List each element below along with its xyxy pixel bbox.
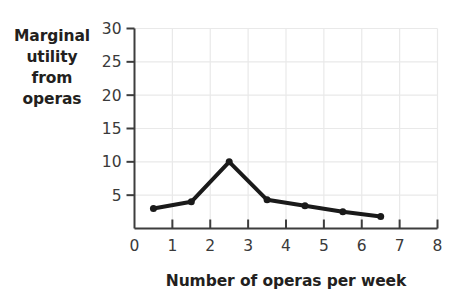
data-point-marker — [301, 202, 308, 209]
grid-lines — [135, 29, 438, 229]
x-tick-label: 3 — [243, 237, 253, 255]
tick-labels: 51015202530012345678 — [102, 20, 443, 255]
chart-figure: Marginal utility from operas 51015202530… — [0, 0, 460, 305]
x-tick-label: 5 — [319, 237, 329, 255]
y-tick-label: 20 — [102, 87, 122, 105]
series-path — [153, 162, 380, 217]
x-axis-title: Number of operas per week — [134, 272, 438, 290]
data-point-marker — [264, 196, 271, 203]
data-series-line — [153, 162, 380, 217]
y-tick-label: 15 — [102, 120, 122, 138]
data-point-marker — [377, 213, 384, 220]
x-tick-label: 2 — [205, 237, 215, 255]
data-point-marker — [339, 208, 346, 215]
y-tick-label: 30 — [102, 20, 122, 38]
x-tick-label: 0 — [130, 237, 140, 255]
data-point-marker — [226, 158, 233, 165]
plot-area: 51015202530012345678 — [0, 0, 460, 305]
y-tick-label: 5 — [112, 187, 122, 205]
y-tick-label: 10 — [102, 153, 122, 171]
x-tick-label: 7 — [395, 237, 405, 255]
x-tick-label: 6 — [357, 237, 367, 255]
x-tick-label: 4 — [281, 237, 291, 255]
y-tick-label: 25 — [102, 53, 122, 71]
data-point-marker — [150, 205, 157, 212]
data-point-marker — [188, 198, 195, 205]
x-tick-label: 8 — [433, 237, 443, 255]
x-tick-label: 1 — [167, 237, 177, 255]
